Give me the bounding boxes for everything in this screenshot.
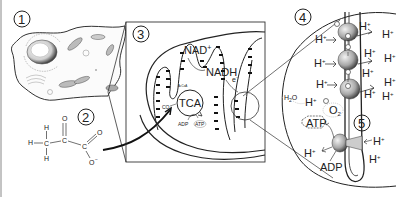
panel-3-label: 3 — [137, 27, 144, 42]
h-plus-out: H+ — [304, 147, 316, 159]
panel-3-mitochondrion: 3 TCA CO2 AcCoA NAD+ NADH e− — [126, 22, 265, 162]
panel-5-atp-synthase: 5 ATP H+ H+ H+ ADP — [302, 115, 385, 173]
complex-iv — [340, 79, 360, 99]
svg-text:H: H — [44, 124, 49, 131]
atp-output-label: ATP — [306, 117, 327, 129]
zoomed-mitochondrion — [106, 85, 118, 91]
svg-text:H: H — [44, 155, 49, 162]
svg-text:C: C — [44, 140, 49, 147]
svg-text:C: C — [62, 137, 67, 144]
inner-membrane-cristae — [154, 44, 230, 140]
adp-label: ADP — [178, 121, 189, 127]
atp-label: ATP — [195, 121, 205, 127]
panel-5-label: 5 — [358, 116, 365, 131]
atp-synthase-stalk — [346, 136, 362, 150]
acetyl-label: AcCoA — [178, 84, 187, 88]
svg-text:H+: H+ — [384, 76, 396, 88]
panel-1-cell: 1 — [11, 11, 125, 100]
h2o-label: H2O — [284, 94, 298, 103]
svg-text:−: − — [95, 156, 98, 162]
svg-text:H+: H+ — [316, 78, 328, 90]
svg-text:C: C — [82, 143, 87, 150]
svg-text:H+: H+ — [382, 90, 394, 102]
svg-text:H+: H+ — [364, 47, 376, 59]
svg-text:H+: H+ — [362, 67, 374, 79]
panel-1-label: 1 — [18, 12, 25, 27]
atp-synthase-head — [332, 134, 348, 152]
svg-text:H+: H+ — [315, 33, 327, 45]
h-plus-in: H+ — [373, 135, 385, 147]
cellular-respiration-diagram: 1 2 H H H C C C O O O − — [0, 0, 408, 197]
svg-text:H+: H+ — [382, 28, 394, 40]
h-plus-ox: H+ — [305, 96, 317, 108]
panel-2-pyruvate: 2 H H H C C C O O O − — [28, 108, 171, 166]
electron-label: e− — [232, 75, 239, 83]
nad-plus-label: NAD+ — [184, 44, 211, 56]
panel-2-label: 2 — [82, 110, 89, 125]
tca-label: TCA — [179, 97, 202, 109]
svg-text:H+: H+ — [314, 57, 326, 69]
svg-text:H+: H+ — [384, 52, 396, 64]
svg-text:O: O — [62, 115, 68, 122]
h-plus-matrix: H+ — [369, 153, 381, 165]
zoom-line — [108, 92, 126, 162]
adp-input-label: ADP — [320, 161, 343, 173]
svg-text:H: H — [28, 139, 33, 146]
panel-4-label: 4 — [299, 10, 306, 25]
svg-text:H+: H+ — [364, 88, 376, 100]
svg-text:O: O — [97, 129, 103, 136]
